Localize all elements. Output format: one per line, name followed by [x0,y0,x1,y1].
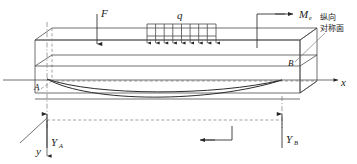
lower-direction-indicator [200,126,232,140]
symmetry-plane-face [35,55,317,66]
support-construction-lines [35,22,317,128]
axis-x-label: x [340,76,346,88]
moment-Me-label: M [298,8,309,20]
deflection-curve-group [47,79,282,97]
figure-canvas: x y F q M e Y A [0,0,357,164]
reaction-YA-group: Y A [47,114,63,149]
reaction-YB-subscript: B [294,139,298,146]
symmetry-plane-leader-line [295,33,325,62]
beam-solid [35,28,317,93]
symmetry-plane-annotation-line2: 对称面 [320,23,344,33]
beam-bottom-right-edge [300,81,317,93]
moment-Me-hook [257,14,285,48]
force-F-group: F [97,7,108,44]
beam-diagram: x y F q M e Y A [0,0,357,164]
distributed-load-q-label: q [177,9,183,21]
reaction-YA-label: Y [51,136,59,148]
lower-indicator-hook [205,126,232,140]
axis-x-group: x [3,76,346,88]
reaction-YB-group: Y B [282,114,298,148]
symmetry-plane-annotation-line1: 纵向 [320,12,336,22]
reaction-YA-subscript: A [58,142,63,149]
axis-z-oblique [20,118,47,143]
beam-front-face [35,40,300,93]
longitudinal-symmetry-plane [35,55,317,66]
deflected-axis-curve [47,79,282,97]
beam-top-face [35,28,317,40]
force-F-label: F [100,7,108,19]
distributed-load-q-group: q [147,9,216,43]
moment-Me-subscript: e [309,14,312,21]
support-a-label: A [33,82,40,92]
support-b-label: B [288,58,294,68]
axis-y-group: y [35,120,47,157]
reaction-YB-label: Y [286,133,294,145]
axis-y-label: y [35,145,41,157]
